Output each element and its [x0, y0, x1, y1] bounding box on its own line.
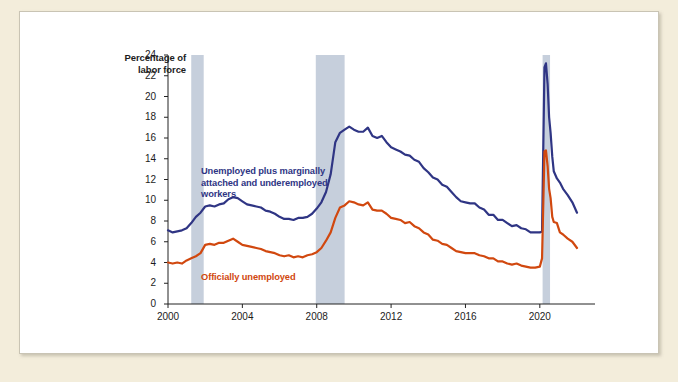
y-tick-label-8: 8	[134, 216, 156, 226]
y-tick-label-16: 16	[134, 133, 156, 143]
y-tick-label-4: 4	[134, 258, 156, 268]
x-tick-label-2016: 2016	[445, 312, 485, 322]
x-tick-label-2008: 2008	[297, 312, 337, 322]
label-blue-line1: Unemployed plus marginally	[201, 166, 351, 178]
chart-card: Percentage of labor force 02468101214161…	[19, 11, 659, 354]
y-tick-label-24: 24	[134, 50, 156, 60]
series-label-underemployed: Unemployed plus marginallyattached and u…	[201, 166, 351, 201]
y-tick-label-12: 12	[134, 175, 156, 185]
y-tick-label-20: 20	[134, 92, 156, 102]
label-blue-line3: workers	[201, 189, 351, 201]
series-label-officially-unemployed: Officially unemployed	[201, 272, 361, 284]
y-tick-label-6: 6	[134, 237, 156, 247]
y-tick-label-14: 14	[134, 154, 156, 164]
y-tick-label-0: 0	[134, 299, 156, 309]
x-tick-label-2020: 2020	[520, 312, 560, 322]
label-red-line1: Officially unemployed	[201, 272, 361, 284]
y-tick-label-2: 2	[134, 278, 156, 288]
chart-plot-area: Percentage of labor force 02468101214161…	[20, 12, 660, 355]
page-root: Percentage of labor force 02468101214161…	[0, 0, 678, 382]
y-tick-label-22: 22	[134, 71, 156, 81]
x-tick-label-2012: 2012	[371, 312, 411, 322]
x-tick-label-2004: 2004	[222, 312, 262, 322]
y-tick-label-10: 10	[134, 195, 156, 205]
x-tick-label-2000: 2000	[148, 312, 188, 322]
series-line-underemployed	[168, 63, 577, 232]
label-blue-line2: attached and underemployed	[201, 178, 351, 190]
y-tick-label-18: 18	[134, 112, 156, 122]
